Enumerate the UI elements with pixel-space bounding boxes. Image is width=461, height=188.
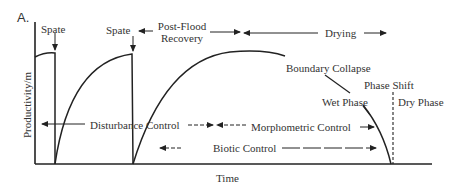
disturbance-control-label: Disturbance Control (90, 119, 180, 131)
post-flood-recovery-line2: Recovery (154, 32, 210, 44)
dry-phase-label: Dry Phase (398, 96, 444, 108)
boundary-collapse-label: Boundary Collapse (286, 62, 371, 74)
phase-shift-label: Phase Shift (364, 79, 414, 91)
wet-phase-label: Wet Phase (322, 96, 368, 108)
productivity-curve-2 (55, 54, 133, 164)
y-axis-label: Productivity/m (21, 72, 33, 138)
productivity-curve-3-decline (363, 105, 391, 164)
drying-label: Drying (325, 27, 356, 39)
productivity-curve-1 (35, 53, 55, 164)
spate-1-label: Spate (41, 23, 65, 35)
post-flood-recovery-label: Post-Flood Recovery (154, 20, 210, 44)
biotic-control-label: Biotic Control (213, 142, 276, 154)
diagram-canvas (0, 0, 461, 188)
post-flood-recovery-line1: Post-Flood (154, 20, 210, 32)
x-axis-label: Time (216, 172, 239, 184)
boundary-collapse-leader (325, 75, 350, 93)
panel-label: A. (17, 12, 29, 24)
spate-2-label: Spate (106, 24, 130, 36)
morphometric-control-label: Morphometric Control (251, 121, 351, 133)
